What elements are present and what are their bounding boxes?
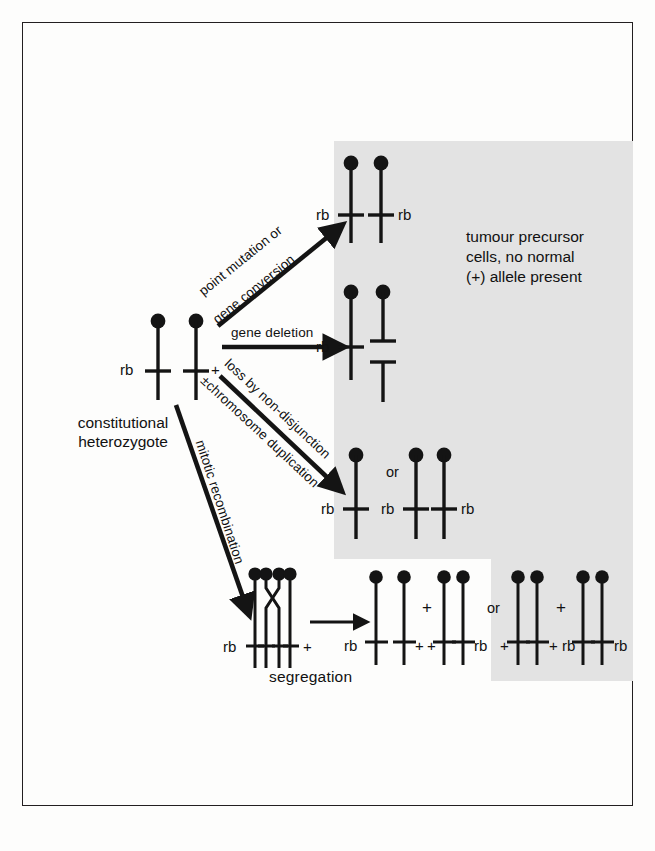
source-caption-line2: heterozygote [43,432,203,451]
tumour-panel-line1: tumour precursor [466,227,584,247]
mitotic-parent-left-allele: rb [223,638,236,655]
mitotic-product-4-right-allele: rb [614,637,627,654]
mitotic-plus-1: + [422,598,432,618]
chromosome-pair-source [145,314,209,400]
mitotic-product-4-left-allele: rb [562,637,575,654]
source-caption-line1: constitutional [43,413,203,432]
non-disjunction-single-allele: rb [321,500,334,517]
mitotic-or-word: or [487,600,500,616]
figure-root: rb + constitutional heterozygote point m… [0,0,655,851]
non-disjunction-pair-right-allele: rb [461,500,474,517]
source-right-allele: + [211,361,220,378]
arrow-non-disjunction [220,376,330,480]
chromosome-product-2 [433,570,475,665]
mitotic-plus-2: + [556,598,566,618]
non-disjunction-or-word: or [386,464,399,480]
mitotic-product-3-left-allele: + [500,637,509,654]
mitotic-product-2-right-allele: rb [474,637,487,654]
mitotic-parent-right-allele: + [303,638,312,655]
chromosome-bivalent-crossover [246,567,299,668]
source-left-allele: rb [120,361,133,378]
point-mutation-left-allele: rb [316,206,329,223]
tumour-panel-line2: cells, no normal [466,247,575,267]
chromosome-product-1 [365,570,416,665]
tumour-panel-line3: (+) allele present [466,267,582,287]
gene-deletion-left-allele: rb [316,338,329,355]
non-disjunction-pair-left-allele: rb [381,500,394,517]
mitotic-product-1-left-allele: rb [344,637,357,654]
pathway-label-gene-deletion: gene deletion [231,325,313,340]
segregation-label: segregation [269,668,352,686]
mitotic-product-1-right-allele: + [415,637,424,654]
shaded-region-tumour-top [334,141,633,559]
point-mutation-right-allele: rb [398,206,411,223]
mitotic-product-2-left-allele: + [427,637,436,654]
mitotic-product-3-right-allele: + [549,637,558,654]
